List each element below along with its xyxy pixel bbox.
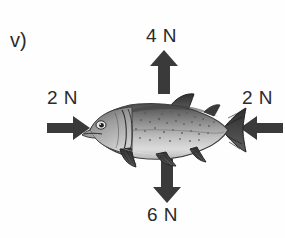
force-diagram: v) 4 N 2 N 2 N 6 N <box>0 0 285 238</box>
fish-head <box>90 107 132 154</box>
force-label-left: 2 N <box>47 88 78 107</box>
fish-eye <box>96 121 106 129</box>
item-label-v: v) <box>10 30 27 50</box>
fish-illustration <box>82 92 248 168</box>
force-label-down: 6 N <box>147 205 178 224</box>
force-arrow-up-icon <box>149 50 179 94</box>
force-label-up: 4 N <box>146 26 177 45</box>
